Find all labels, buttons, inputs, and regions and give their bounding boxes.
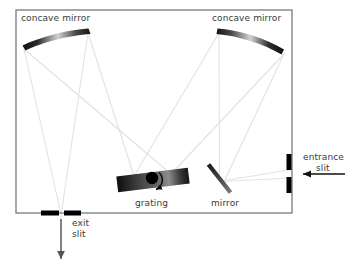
label-exit-slit-line1: exit: [72, 218, 90, 228]
ray-plane-mirror-to-right-mirror-outer: [223, 54, 284, 184]
label-exit-slit-line2: slit: [72, 229, 86, 239]
label-concave-mirror-right: concave mirror: [212, 13, 281, 23]
ray-right-mirror-to-grating-inner: [134, 33, 219, 176]
entrance-slit-jaw-bottom: [287, 177, 292, 193]
concave-mirror-right: [217, 29, 285, 55]
ray-grating-to-left-mirror-outer: [24, 49, 171, 174]
entrance-slit: [287, 154, 292, 193]
ray-left-mirror-to-exit-slit-inner: [62, 33, 89, 212]
ray-grating-to-left-mirror-inner: [88, 33, 134, 176]
monochromator-optical-diagram: concave mirror concave mirror grating mi…: [0, 0, 360, 271]
ray-paths: [24, 33, 292, 254]
ray-left-mirror-to-exit-slit-outer: [24, 49, 61, 212]
diagram-canvas: concave mirror concave mirror grating mi…: [0, 0, 360, 271]
exit-slit-jaw-left: [41, 211, 59, 216]
ray-right-mirror-to-grating-outer: [171, 54, 284, 174]
label-entrance-slit-line1: entrance: [303, 152, 344, 162]
label-mirror: mirror: [211, 198, 239, 208]
exit-slit-jaw-right: [64, 211, 81, 216]
ray-plane-mirror-to-right-mirror-inner: [219, 33, 220, 179]
grating-pivot-icon: [146, 172, 158, 184]
label-entrance-slit-line2: slit: [316, 163, 330, 173]
entrance-slit-jaw-top: [287, 154, 292, 170]
label-concave-mirror-left: concave mirror: [21, 13, 90, 23]
concave-mirror-left: [23, 29, 91, 51]
grating-assembly[interactable]: [116, 168, 189, 193]
label-grating: grating: [135, 198, 168, 208]
